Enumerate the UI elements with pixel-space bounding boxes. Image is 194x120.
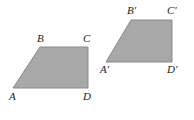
vertex-label-a-prime: A′ [100,64,109,75]
shapes-canvas [0,0,194,120]
vertex-label-d-prime: D′ [167,64,177,75]
trapezoid-abcd-prime-shape [106,20,172,62]
vertex-label-b-prime: B′ [127,5,136,16]
vertex-label-b: B [37,33,44,44]
vertex-label-a: A [9,91,16,102]
trapezoid-abcd-shape [13,47,88,88]
vertex-label-c: C [83,33,90,44]
vertex-label-c-prime: C′ [167,5,177,16]
vertex-label-d: D [83,91,91,102]
geometry-figure: A B C D A′ B′ C′ D′ [0,0,194,120]
